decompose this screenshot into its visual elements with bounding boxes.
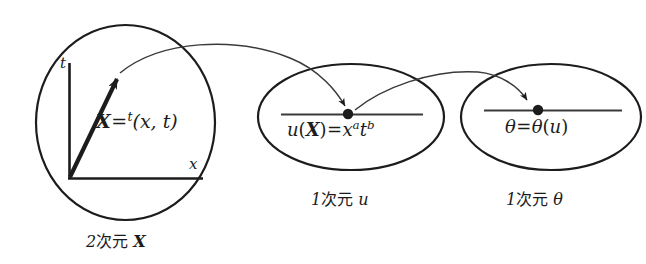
caption-set-theta: 1次元 θ bbox=[506, 186, 563, 210]
equation-u-of-x: u(X)=xatb bbox=[287, 120, 375, 139]
equation-lhs: θ bbox=[505, 116, 516, 137]
caption-prefix: 2 bbox=[86, 232, 96, 251]
equation-exponent-b: b bbox=[367, 118, 375, 132]
caption-symbol: u bbox=[358, 190, 368, 209]
equation-rhs: (x, t) bbox=[132, 110, 177, 132]
equation-relation: = bbox=[327, 119, 343, 140]
equation-base-x: x bbox=[342, 119, 352, 140]
caption-jp: 次元 bbox=[321, 190, 353, 209]
caption-jp: 次元 bbox=[96, 232, 128, 251]
caption-prefix: 1 bbox=[506, 190, 516, 209]
caption-symbol: θ bbox=[553, 190, 563, 209]
equation-fn-name: θ bbox=[532, 116, 543, 137]
math-diagram: t x X=t(x, t) 2次元 X u(X)=xatb 1次元 u θ=θ(… bbox=[0, 0, 646, 264]
equation-theta: θ=θ(u) bbox=[505, 118, 568, 136]
caption-jp: 次元 bbox=[516, 190, 548, 209]
equation-base-t: t bbox=[360, 119, 367, 140]
equation-relation: = bbox=[516, 116, 532, 137]
axis-label-x: x bbox=[189, 157, 197, 172]
equation-lhs: X bbox=[96, 110, 111, 132]
axis-label-t: t bbox=[60, 56, 66, 71]
caption-set-u: 1次元 u bbox=[311, 186, 369, 210]
equation-relation: = bbox=[111, 110, 128, 132]
equation-vector-x: X=t(x, t) bbox=[96, 111, 178, 131]
caption-symbol: X bbox=[133, 232, 145, 251]
equation-fn-arg: X bbox=[306, 119, 320, 140]
equation-exponent-a: a bbox=[353, 118, 360, 132]
point-theta bbox=[533, 105, 543, 115]
equation-fn-arg: u bbox=[550, 116, 562, 137]
caption-domain-x: 2次元 X bbox=[86, 228, 146, 252]
arrow-x-to-u bbox=[120, 44, 345, 106]
caption-prefix: 1 bbox=[311, 190, 321, 209]
equation-fn-name: u bbox=[287, 119, 299, 140]
